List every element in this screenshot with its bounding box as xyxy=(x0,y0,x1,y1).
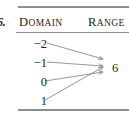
rule-top xyxy=(18,6,129,8)
column-header-domain: DOMAIN xyxy=(19,15,63,30)
column-header-domain-rest: OMAIN xyxy=(28,18,62,28)
mapping-diagram: −2 −1 0 1 6 xyxy=(0,33,129,109)
exercise-number: 6. xyxy=(0,15,13,30)
range-value: 6 xyxy=(112,62,118,75)
domain-value: −1 xyxy=(34,57,47,70)
arrow-minus1-to-6 xyxy=(47,62,103,66)
exercise-figure: 6. DOMAIN RANGE −2 −1 0 1 6 xyxy=(0,0,129,117)
rule-bottom xyxy=(18,109,129,111)
column-header-range-rest: ANGE xyxy=(97,18,125,28)
domain-value: −2 xyxy=(34,38,47,51)
arrow-minus2-to-6 xyxy=(47,43,103,59)
domain-value: 1 xyxy=(41,95,47,108)
arrow-1-to-6 xyxy=(45,67,103,100)
arrow-0-to-6 xyxy=(45,72,103,81)
column-header-range-initial: R xyxy=(88,15,97,29)
column-header-range: RANGE xyxy=(88,15,125,30)
domain-value: 0 xyxy=(41,76,47,89)
arrow-group xyxy=(0,33,129,109)
